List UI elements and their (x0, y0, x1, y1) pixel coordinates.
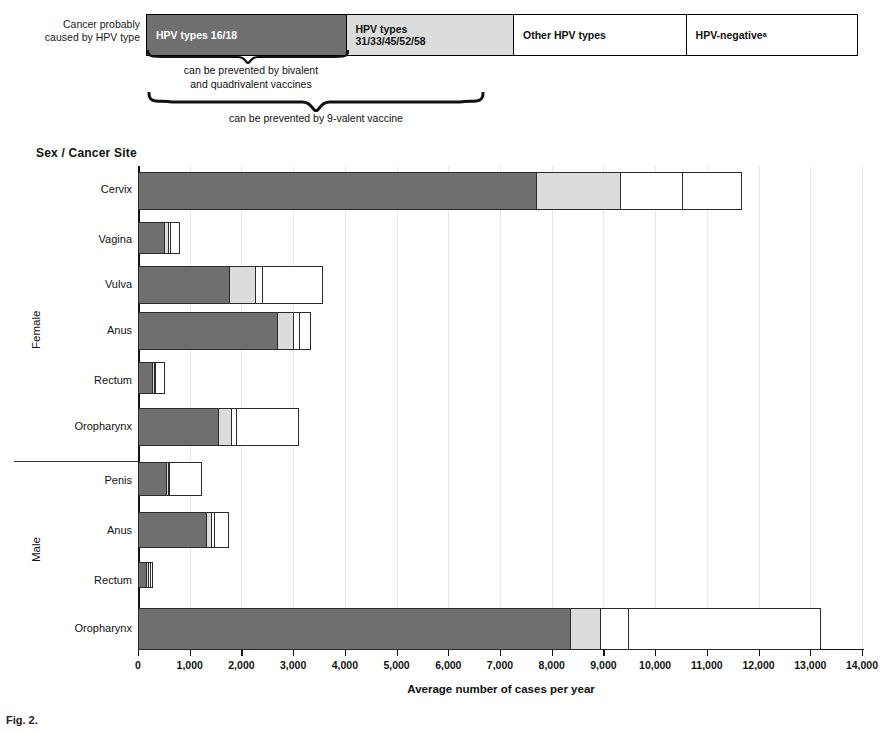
y-category-label-anus-7: Anus (107, 524, 132, 536)
bar-segment-series-4 (236, 408, 299, 446)
bar-segment-series-1 (138, 462, 167, 496)
gridline-12000 (759, 166, 760, 649)
bar-segment-series-4 (155, 362, 165, 394)
y-group-label-male: Male (30, 505, 42, 595)
bar-segment-series-1 (138, 362, 153, 394)
bar-segment-series-1 (138, 172, 537, 210)
x-tick-11000 (707, 650, 708, 656)
gridline-8000 (552, 166, 553, 649)
bar-segment-series-2 (536, 172, 621, 210)
bar-segment-series-4 (169, 462, 202, 496)
brace-bivalent-label: can be prevented by bivalent and quadriv… (86, 63, 416, 91)
legend-item-hpv-31-line1: HPV types (356, 23, 408, 35)
x-tick-14000 (862, 650, 863, 656)
x-tick-label-11000: 11,000 (691, 659, 723, 671)
x-tick-8000 (552, 650, 553, 656)
bar-segment-series-1 (138, 608, 571, 650)
y-category-label-vagina-1: Vagina (99, 233, 132, 245)
legend-item-hpv-31-label: HPV types 31/33/45/52/58 (356, 23, 426, 48)
x-tick-label-1000: 1,000 (177, 659, 203, 671)
bar-segment-series-2 (229, 266, 256, 304)
gridline-11000 (707, 166, 708, 649)
bar-segment-series-1 (138, 512, 207, 548)
legend-item-hpv-31-line2: 31/33/45/52/58 (356, 35, 426, 47)
y-category-label-cervix-0: Cervix (101, 183, 132, 195)
x-tick-label-7000: 7,000 (487, 659, 513, 671)
x-tick-5000 (397, 650, 398, 656)
y-category-label-oropharynx-5: Oropharynx (75, 420, 132, 432)
bar-segment-series-1 (138, 408, 219, 446)
x-tick-label-12000: 12,000 (743, 659, 775, 671)
sex-group-divider (14, 461, 139, 462)
x-tick-13000 (810, 650, 811, 656)
stacked-bar (138, 222, 180, 254)
stacked-bar (138, 312, 311, 350)
legend-item-hpv-negative-label: HPV-negative (696, 29, 763, 42)
legend-item-hpv-negative-superscript: a (763, 29, 767, 42)
y-group-label-female: Female (30, 255, 42, 405)
x-tick-0 (138, 650, 139, 656)
stacked-bar (138, 266, 323, 304)
gridline-6000 (448, 166, 449, 649)
x-axis-label: Average number of cases per year (138, 683, 864, 695)
legend-item-other-hpv-label: Other HPV types (523, 29, 606, 42)
legend-item-hpv-16-18-label: HPV types 16/18 (156, 29, 237, 42)
bar-segment-series-3 (600, 608, 629, 650)
legend-item-hpv-16-18[interactable]: HPV types 16/18 (147, 15, 347, 55)
legend-caption-line1: Cancer probably (22, 18, 140, 31)
y-category-label-oropharynx-9: Oropharynx (75, 622, 132, 634)
figure-caption: Fig. 2. (6, 714, 38, 726)
brace-bivalent-icon (146, 50, 350, 64)
stacked-bar (138, 408, 299, 446)
bar-segment-series-2 (570, 608, 602, 650)
x-tick-label-14000: 14,000 (846, 659, 878, 671)
bar-segment-series-1 (138, 312, 278, 350)
brace-bivalent-line1: can be prevented by bivalent (86, 63, 416, 77)
gridline-13000 (810, 166, 811, 649)
x-tick-12000 (759, 650, 760, 656)
y-category-label-rectum-8: Rectum (94, 574, 132, 586)
brace-bivalent-line2: and quadrivalent vaccines (86, 77, 416, 91)
stacked-bar (138, 172, 742, 210)
x-tick-label-6000: 6,000 (435, 659, 461, 671)
bar-segment-series-4 (150, 562, 153, 588)
x-tick-label-3000: 3,000 (280, 659, 306, 671)
x-tick-label-5000: 5,000 (383, 659, 409, 671)
chart-axis-title: Sex / Cancer Site (36, 146, 137, 160)
y-category-label-rectum-4: Rectum (94, 374, 132, 386)
bar-segment-series-3 (620, 172, 683, 210)
gridline-10000 (655, 166, 656, 649)
x-tick-label-8000: 8,000 (539, 659, 565, 671)
x-tick-9000 (603, 650, 604, 656)
y-category-label-penis-6: Penis (104, 474, 132, 486)
x-tick-6000 (448, 650, 449, 656)
legend-item-hpv-31-33-45-52-58[interactable]: HPV types 31/33/45/52/58 (347, 15, 515, 55)
stacked-bar (138, 512, 229, 548)
x-tick-label-13000: 13,000 (794, 659, 826, 671)
bar-segment-series-4 (299, 312, 311, 350)
gridline-14000 (862, 166, 863, 649)
x-tick-label-2000: 2,000 (228, 659, 254, 671)
brace-9valent-icon (146, 92, 486, 112)
bar-segment-series-2 (277, 312, 294, 350)
x-tick-label-9000: 9,000 (590, 659, 616, 671)
gridline-4000 (345, 166, 346, 649)
bar-segment-series-4 (170, 222, 180, 254)
brace-9valent-label: can be prevented by 9-valent vaccine (146, 112, 486, 124)
legend-item-hpv-negative[interactable]: HPV-negativea (687, 15, 857, 55)
x-tick-1000 (190, 650, 191, 656)
x-tick-3000 (293, 650, 294, 656)
bar-segment-series-4 (214, 512, 228, 548)
x-tick-7000 (500, 650, 501, 656)
bar-segment-series-4 (628, 608, 821, 650)
x-tick-2000 (241, 650, 242, 656)
stacked-bar (138, 462, 202, 496)
y-category-label-anus-3: Anus (107, 324, 132, 336)
bar-segment-series-1 (138, 222, 165, 254)
stacked-bar (138, 362, 165, 394)
bar-segment-series-4 (682, 172, 742, 210)
legend-item-other-hpv[interactable]: Other HPV types (514, 15, 687, 55)
x-tick-label-10000: 10,000 (639, 659, 671, 671)
stacked-bar (138, 608, 821, 650)
x-tick-label-0: 0 (135, 659, 141, 671)
